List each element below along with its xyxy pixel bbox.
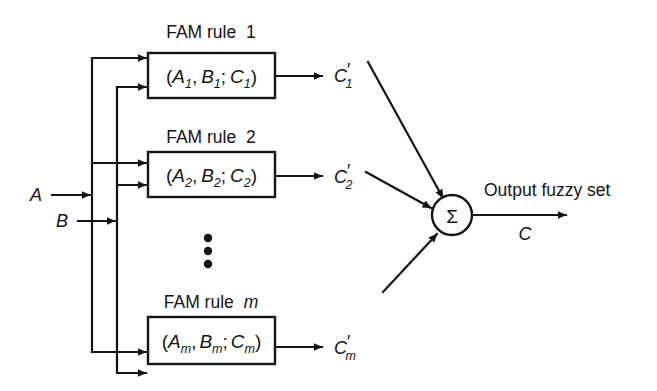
- rule-1-sep1: ,: [192, 66, 197, 87]
- rule-2-b: B: [201, 165, 214, 186]
- rule-1-out-sub: 1: [345, 77, 352, 91]
- rule-1-sep2: ;: [221, 66, 226, 87]
- rule-m-c-sub: m: [245, 342, 255, 356]
- rule-2-a-sub: 2: [184, 176, 192, 190]
- rule-1-title-index: 1: [246, 22, 256, 42]
- rule-1-title: FAM rule 1: [166, 22, 256, 42]
- rule-2-block: FAM rule 2 (A2,B2;C2) C′2: [148, 127, 352, 197]
- rule-1-block: FAM rule 1 (A1,B1;C1) C′1: [148, 22, 352, 98]
- rule-m-output-label: C′m: [334, 332, 356, 363]
- input-a-label: A: [29, 185, 42, 205]
- input-b-label: B: [56, 211, 68, 231]
- converge-wire-2: [366, 172, 431, 208]
- rule-1-a: A: [171, 66, 185, 87]
- rule-1-input-wires: [92, 58, 146, 87]
- rule-m-sep1: ,: [191, 331, 196, 352]
- converge-wire-m: [383, 234, 437, 292]
- rule-1-a-sub: 1: [185, 77, 192, 91]
- rule-1-title-prefix: FAM rule: [166, 22, 236, 42]
- output-group: Output fuzzy set C: [472, 180, 611, 244]
- rule-m-c: C: [231, 331, 245, 352]
- rule-1-b-sub: 1: [214, 77, 221, 91]
- rule-m-out-sub: m: [345, 349, 355, 363]
- ellipsis-dot-2: [204, 247, 212, 255]
- vertical-ellipsis: [204, 234, 212, 268]
- rule-1-c-sub: 1: [244, 77, 251, 91]
- summation-input-wires: [366, 62, 443, 292]
- converge-wire-1: [368, 62, 443, 198]
- diagram-canvas: A B FAM rule 1: [0, 0, 657, 391]
- rule-1-c: C: [230, 66, 244, 87]
- summation-node: Σ: [432, 195, 472, 235]
- rule-2-output-label: C′2: [334, 161, 352, 192]
- rule-2-title-index: 2: [246, 127, 256, 147]
- input-b-group: B: [56, 211, 115, 231]
- rule-m-title: FAM rule m: [164, 292, 258, 312]
- ellipsis-dot-3: [204, 260, 212, 268]
- output-caption: Output fuzzy set: [484, 180, 611, 200]
- rule-m-title-index: m: [244, 292, 259, 312]
- fam-system-diagram: A B FAM rule 1: [0, 0, 657, 391]
- rule-2-sep2: ;: [221, 165, 226, 186]
- ellipsis-dot-1: [204, 234, 212, 242]
- rule-1-output-label: C′1: [334, 60, 352, 91]
- rule-m-b: B: [199, 331, 212, 352]
- rule-m-sep2: ;: [223, 331, 228, 352]
- input-a-group: A: [29, 185, 90, 205]
- rule-2-title: FAM rule 2: [166, 127, 256, 147]
- summation-symbol: Σ: [446, 206, 458, 227]
- output-label: C: [519, 224, 533, 244]
- rule-1-b: B: [201, 66, 214, 87]
- rule-2-title-prefix: FAM rule: [166, 127, 236, 147]
- rule-m-a: A: [167, 331, 181, 352]
- rule-2-a: A: [171, 165, 185, 186]
- rule-m-title-prefix: FAM rule: [164, 292, 234, 312]
- rule-m-a-sub: m: [181, 342, 191, 356]
- rule-2-c-sub: 2: [243, 176, 251, 190]
- rule-2-sep1: ,: [192, 165, 197, 186]
- rule-1-close: ): [251, 66, 257, 87]
- rule-m-block: FAM rule m (Am,Bm;Cm) C′m: [148, 292, 356, 364]
- rule-m-close: ): [255, 331, 261, 352]
- rule-m-input-wires: [92, 352, 146, 373]
- rule-m-b-sub: m: [212, 342, 222, 356]
- rule-2-input-wires: [92, 163, 146, 185]
- rule-2-out-sub: 2: [344, 178, 352, 192]
- rule-2-b-sub: 2: [213, 176, 221, 190]
- rule-2-close: ): [251, 165, 257, 186]
- rule-2-c: C: [230, 165, 244, 186]
